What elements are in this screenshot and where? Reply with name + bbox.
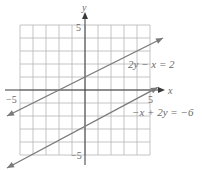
y-tick-neg: −5 <box>71 150 82 161</box>
x-tick-neg: −5 <box>6 94 17 105</box>
y-axis-arrow-icon <box>82 12 88 19</box>
line2-equation-label: −x + 2y = −6 <box>132 106 194 118</box>
series-line-2 <box>7 87 158 168</box>
y-tick-pos: 5 <box>76 22 81 33</box>
x-axis-arrow-icon <box>158 87 165 93</box>
x-tick-pos: 5 <box>148 94 153 105</box>
coordinate-plane: y x 5 −5 −5 5 2y − x = 2 −x + 2y = −6 <box>0 0 202 170</box>
x-axis-label: x <box>167 85 173 96</box>
line1-equation-label: 2y − x = 2 <box>128 58 175 70</box>
y-axis-label: y <box>81 2 87 13</box>
